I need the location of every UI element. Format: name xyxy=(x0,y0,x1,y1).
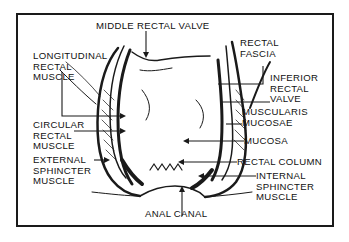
label-rectal-fascia: RECTAL FASCIA xyxy=(240,38,279,59)
label-external-sphincter-muscle: EXTERNAL SPHINCTER MUSCLE xyxy=(33,155,91,187)
label-muscularis-mucosae: MUSCULARIS MUCOSAE xyxy=(242,107,308,128)
label-middle-rectal-valve: MIDDLE RECTAL VALVE xyxy=(96,21,210,32)
label-circular-rectal-muscle: CIRCULAR RECTAL MUSCLE xyxy=(33,120,84,152)
label-longitudinal-rectal-muscle: LONGITUDINAL RECTAL MUSCLE xyxy=(33,51,108,83)
label-internal-sphincter-muscle: INTERNAL SPHINCTER MUSCLE xyxy=(256,171,314,203)
label-mucosa: MUCOSA xyxy=(244,136,288,147)
label-anal-canal: ANAL CANAL xyxy=(145,209,207,220)
label-inferior-rectal-valve: INFERIOR RECTAL VALVE xyxy=(270,73,318,105)
label-rectal-column: RECTAL COLUMN xyxy=(237,157,322,168)
